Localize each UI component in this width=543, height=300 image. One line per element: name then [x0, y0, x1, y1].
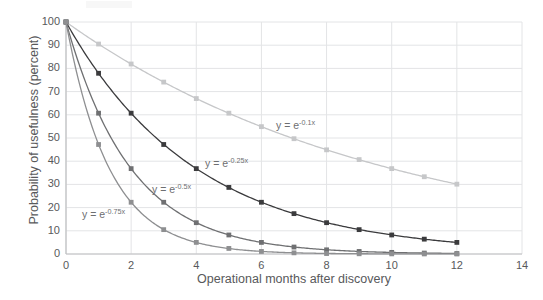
data-point-marker [454, 240, 459, 245]
plot-canvas [0, 0, 543, 300]
data-point-marker [389, 233, 394, 238]
data-point-marker [194, 220, 199, 225]
data-point-marker [324, 147, 329, 152]
curve-label-exponent: -0.25x [228, 156, 248, 165]
data-point-marker [161, 200, 166, 205]
data-point-marker [292, 245, 297, 250]
curve-label-exponent: -0.1x [299, 118, 315, 127]
curve-label-text: y = e [152, 183, 175, 195]
data-point-marker [259, 249, 264, 254]
data-point-marker [226, 111, 231, 116]
data-point-marker [389, 166, 394, 171]
data-point-marker [422, 237, 427, 242]
data-point-marker [96, 111, 101, 116]
curve-label-exponent: -0.75x [105, 207, 125, 216]
data-point-marker [259, 124, 264, 129]
data-point-marker [324, 251, 329, 256]
curve-label-text: y = e [276, 119, 299, 131]
data-point-marker [259, 200, 264, 205]
curve-label-exponent: -0.5x [175, 182, 191, 191]
data-point-marker [64, 20, 69, 25]
data-point-marker [259, 240, 264, 245]
data-point-marker [292, 136, 297, 141]
data-point-marker [129, 166, 134, 171]
data-point-marker [226, 185, 231, 190]
data-point-marker [357, 251, 362, 256]
data-point-marker [96, 142, 101, 147]
data-point-marker [422, 252, 427, 257]
curve-label-2: y = e-0.5x [152, 183, 191, 195]
chart-figure: Probability of usefulness (percent) Oper… [0, 0, 543, 300]
curve-label-text: y = e [205, 157, 228, 169]
curve-label-1: y = e-0.25x [205, 157, 248, 169]
data-point-marker [161, 142, 166, 147]
data-point-marker [357, 227, 362, 232]
data-point-marker [324, 220, 329, 225]
data-point-marker [161, 80, 166, 85]
data-point-marker [96, 71, 101, 76]
curve-label-0: y = e-0.1x [276, 119, 315, 131]
data-point-marker [454, 182, 459, 187]
curve-label-text: y = e [82, 208, 105, 220]
data-point-marker [194, 96, 199, 101]
data-point-marker [226, 233, 231, 238]
data-point-marker [161, 227, 166, 232]
data-point-marker [292, 211, 297, 216]
data-point-marker [129, 200, 134, 205]
curve-label-3: y = e-0.75x [82, 208, 125, 220]
data-point-marker [454, 252, 459, 257]
data-point-marker [129, 111, 134, 116]
data-point-marker [129, 62, 134, 67]
data-point-marker [422, 174, 427, 179]
data-point-marker [389, 251, 394, 256]
data-point-marker [357, 157, 362, 162]
data-point-marker [226, 246, 231, 251]
data-point-marker [194, 166, 199, 171]
data-point-marker [96, 42, 101, 47]
data-point-marker [292, 250, 297, 255]
data-point-marker [194, 240, 199, 245]
